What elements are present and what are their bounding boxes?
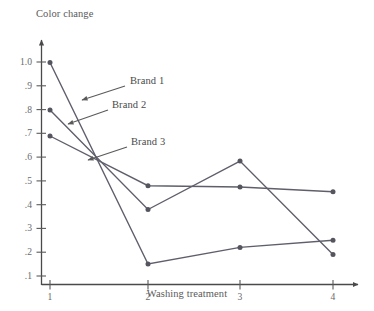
series-annotation-brand-2: Brand 2	[112, 99, 146, 110]
data-point	[331, 189, 336, 194]
y-tick-label: .1	[6, 270, 32, 281]
data-point	[146, 183, 151, 188]
x-axis-title: Washing treatment	[0, 288, 374, 299]
y-tick-label: .8	[6, 104, 32, 115]
data-point	[146, 207, 151, 212]
data-point	[48, 60, 53, 65]
y-tick-label: .4	[6, 199, 32, 210]
series-line-brand-1	[50, 63, 333, 265]
y-tick-label: .3	[6, 222, 32, 233]
y-tick-label: 1.0	[6, 56, 32, 67]
y-tick-label: .9	[6, 80, 32, 91]
y-tick-label: .5	[6, 175, 32, 186]
data-point	[238, 159, 243, 164]
series-line-brand-3	[50, 136, 333, 192]
y-tick-label: .2	[6, 246, 32, 257]
data-point	[238, 245, 243, 250]
data-point	[331, 238, 336, 243]
data-point	[48, 107, 53, 112]
y-tick-label: .7	[6, 127, 32, 138]
series-lines	[50, 63, 333, 265]
series-line-brand-2	[50, 110, 333, 255]
data-point	[146, 262, 151, 267]
annotation-leader-brand-1	[82, 86, 125, 100]
series-markers	[48, 60, 336, 267]
data-point	[238, 185, 243, 190]
series-annotation-brand-3: Brand 3	[131, 136, 165, 147]
series-annotation-brand-1: Brand 1	[130, 75, 164, 86]
line-chart: Color change	[0, 0, 374, 311]
plot-area	[0, 0, 374, 311]
data-point	[331, 252, 336, 257]
y-tick-label: .6	[6, 151, 32, 162]
data-point	[48, 134, 53, 139]
axis-lines	[42, 40, 359, 285]
